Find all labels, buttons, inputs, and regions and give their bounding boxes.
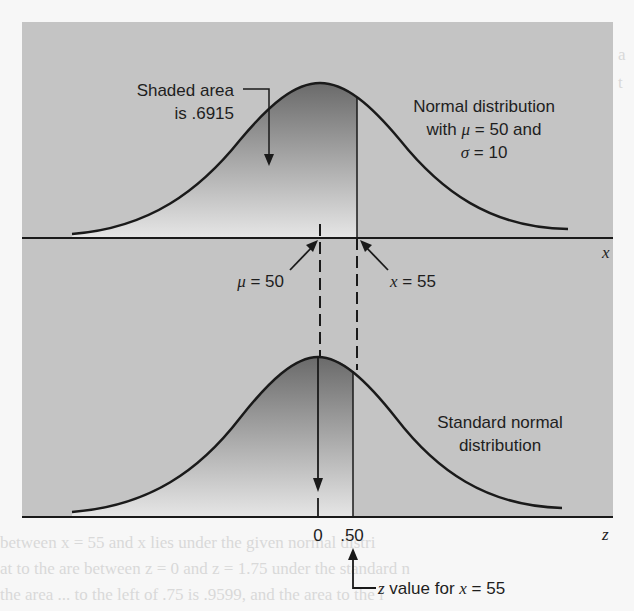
normal-dist-label-line3: σ = 10 [461,143,508,162]
top-axis-label: x [601,243,610,262]
normal-dist-label-line2: with μ = 50 and [426,120,542,139]
shaded-area-label-line2: is .6915 [174,104,234,123]
svg-text:at to the are between z = 0 an: at to the are between z = 0 and z = 1.75… [0,559,411,578]
svg-text:a: a [618,45,626,64]
standard-normal-label-line2: distribution [459,436,541,455]
svg-text:the area ... to the left of .: the area ... to the left of .75 is .9599… [0,585,384,604]
tick-half: .50 [340,526,364,545]
svg-text:t: t [618,73,623,92]
x55-label: x = 55 [389,272,436,291]
standard-normal-label-line1: Standard normal [437,413,563,432]
tick-zero: 0 [313,526,322,545]
z-value-note: z value for x = 55 [377,579,505,598]
mu-label: μ = 50 [236,272,284,291]
bottom-axis-label: z [601,525,609,544]
shaded-area-label-line1: Shaded area [137,81,235,100]
normal-dist-label-line1: Normal distribution [413,97,555,116]
normal-to-standard-normal-diagram: a t between x = 55 and x lies under the … [0,0,634,611]
